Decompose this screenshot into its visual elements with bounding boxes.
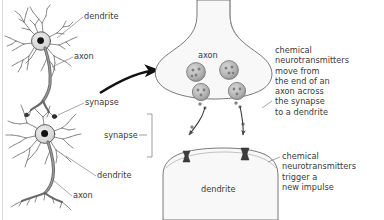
synapse-bracket: [139, 114, 152, 157]
lower-axon-trunk: [45, 142, 54, 193]
lower-axon-branches: [22, 193, 62, 202]
bracket-shape: [147, 114, 152, 157]
callout-top-text: chemical neurotransmitters move from the…: [275, 45, 349, 117]
vesicle-fusing-left: [192, 83, 209, 100]
leader-top-callout: [262, 101, 272, 108]
released-neurotransmitters: [191, 102, 245, 129]
leader-left-synapse: [58, 103, 84, 115]
upper-neuron: [5, 5, 77, 119]
leader-upper-dendrite: [57, 17, 83, 38]
synapse-diagram-figure: dendrite axon synapse dendrite axon axon…: [0, 0, 384, 220]
label-upper-axon: axon: [74, 51, 94, 61]
label-magnified-dendrite: dendrite: [201, 184, 236, 194]
leader-lower-dendrite: [66, 156, 96, 176]
upper-axon-trunk: [43, 48, 50, 101]
lower-nucleus: [41, 130, 48, 137]
leader-lower-axon: [53, 180, 72, 196]
label-bracket-synapse: synapse: [104, 130, 138, 140]
label-lower-dendrite: dendrite: [97, 170, 132, 180]
label-lower-axon: axon: [73, 190, 93, 200]
transmitter-path-left: [189, 107, 205, 135]
callout-bottom-text: chemical neurotransmitters trigger a new…: [282, 151, 356, 192]
vesicle-fusing-right: [228, 82, 245, 99]
transmitter-path-right: [240, 106, 243, 135]
vesicle-upper-left: [187, 63, 206, 82]
upper-axon-branches: [31, 101, 49, 112]
upper-nucleus: [37, 37, 44, 44]
label-left-synapse: synapse: [85, 97, 119, 107]
label-magnified-axon: axon: [198, 50, 218, 60]
upper-terminal-bouton-right: [52, 114, 57, 118]
label-upper-dendrite: dendrite: [84, 11, 119, 21]
magnified-axon-terminal: [155, 0, 272, 135]
magnify-arrow: [100, 70, 158, 93]
vesicle-upper-right: [220, 61, 239, 80]
